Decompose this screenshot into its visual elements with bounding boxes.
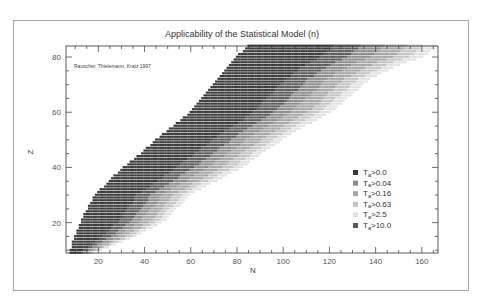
nuclide-cell — [116, 235, 119, 237]
nuclide-cell — [319, 97, 322, 99]
nuclide-cell — [259, 75, 262, 77]
nuclide-cell — [150, 213, 153, 215]
nuclide-cell — [160, 210, 163, 212]
nuclide-cell — [257, 64, 260, 66]
nuclide-cell — [95, 216, 98, 218]
nuclide-cell — [127, 213, 130, 215]
nuclide-cell — [206, 100, 209, 102]
nuclide-cell — [365, 58, 368, 60]
nuclide-cell — [358, 53, 361, 55]
nuclide-cell — [134, 216, 137, 218]
nuclide-cell — [317, 67, 320, 69]
nuclide-cell — [227, 83, 230, 85]
nuclide-cell — [245, 138, 248, 140]
nuclide-cell — [134, 172, 137, 174]
nuclide-cell — [284, 78, 287, 80]
nuclide-cell — [227, 144, 230, 146]
nuclide-cell — [123, 180, 126, 182]
nuclide-cell — [141, 216, 144, 218]
nuclide-cell — [118, 241, 121, 243]
nuclide-cell — [217, 158, 220, 160]
nuclide-cell — [102, 235, 105, 237]
nuclide-cell — [132, 224, 135, 226]
nuclide-cell — [201, 147, 204, 149]
nuclide-cell — [210, 136, 213, 138]
nuclide-cell — [116, 219, 119, 221]
nuclide-cell — [153, 199, 156, 201]
nuclide-cell — [100, 194, 103, 196]
nuclide-cell — [130, 183, 133, 185]
nuclide-cell — [245, 130, 248, 132]
nuclide-cell — [132, 172, 135, 174]
nuclide-cell — [291, 58, 294, 60]
nuclide-cell — [307, 61, 310, 63]
nuclide-cell — [227, 141, 230, 143]
nuclide-cell — [153, 221, 156, 223]
nuclide-cell — [317, 103, 320, 105]
nuclide-cell — [116, 230, 119, 232]
nuclide-cell — [224, 105, 227, 107]
nuclide-cell — [277, 97, 280, 99]
nuclide-cell — [86, 219, 89, 221]
nuclide-cell — [74, 235, 77, 237]
nuclide-cell — [215, 125, 218, 127]
nuclide-cell — [146, 147, 149, 149]
nuclide-cell — [252, 97, 255, 99]
nuclide-cell — [391, 50, 394, 52]
nuclide-cell — [176, 138, 179, 140]
nuclide-cell — [113, 219, 116, 221]
nuclide-cell — [143, 216, 146, 218]
annotation-text: Rauscher, Thielemann, Kratz 1997 — [74, 63, 151, 69]
nuclide-cell — [130, 196, 133, 198]
nuclide-cell — [183, 161, 186, 163]
nuclide-cell — [171, 185, 174, 187]
nuclide-cell — [109, 238, 112, 240]
nuclide-cell — [164, 161, 167, 163]
nuclide-cell — [409, 50, 412, 52]
nuclide-cell — [160, 161, 163, 163]
nuclide-cell — [123, 177, 126, 179]
nuclide-cell — [118, 221, 121, 223]
nuclide-cell — [93, 205, 96, 207]
nuclide-cell — [169, 210, 172, 212]
nuclide-cell — [79, 232, 82, 234]
nuclide-cell — [273, 50, 276, 52]
nuclide-cell — [287, 50, 290, 52]
nuclide-cell — [275, 138, 278, 140]
nuclide-cell — [273, 61, 276, 63]
nuclide-cell — [310, 53, 313, 55]
nuclide-cell — [199, 141, 202, 143]
nuclide-cell — [215, 105, 218, 107]
nuclide-cell — [208, 133, 211, 135]
nuclide-cell — [210, 100, 213, 102]
nuclide-cell — [190, 147, 193, 149]
nuclide-cell — [349, 64, 352, 66]
nuclide-cell — [224, 122, 227, 124]
nuclide-cell — [287, 89, 290, 91]
nuclide-cell — [301, 122, 304, 124]
nuclide-cell — [319, 89, 322, 91]
nuclide-cell — [307, 83, 310, 85]
nuclide-cell — [88, 207, 91, 209]
nuclide-cell — [301, 61, 304, 63]
nuclide-cell — [150, 210, 153, 212]
y-axis-label: Z — [26, 149, 35, 154]
nuclide-cell — [199, 166, 202, 168]
nuclide-cell — [328, 103, 331, 105]
nuclide-cell — [83, 238, 86, 240]
nuclide-cell — [160, 147, 163, 149]
nuclide-cell — [192, 136, 195, 138]
nuclide-cell — [247, 83, 250, 85]
nuclide-cell — [139, 169, 142, 171]
nuclide-cell — [102, 219, 105, 221]
nuclide-cell — [247, 58, 250, 60]
nuclide-cell — [190, 111, 193, 113]
nuclide-cell — [250, 100, 253, 102]
nuclide-cell — [312, 58, 315, 60]
nuclide-cell — [215, 169, 218, 171]
nuclide-cell — [187, 114, 190, 116]
nuclide-cell — [157, 213, 160, 215]
nuclide-cell — [321, 58, 324, 60]
nuclide-cell — [162, 163, 165, 165]
nuclide-cell — [104, 210, 107, 212]
